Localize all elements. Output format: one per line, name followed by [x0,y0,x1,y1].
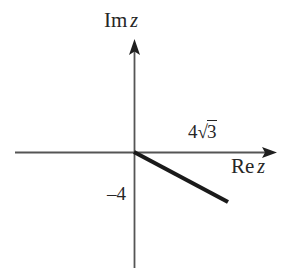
real-axis-label-variable: z [254,155,265,177]
ray-segment [134,152,228,202]
tick-coefficient: 4 [188,121,198,142]
tick-radicand: 3 [207,120,218,142]
complex-plane-figure: Imz Rez 4√3 –4 [0,0,305,273]
imaginary-axis-label-variable: z [127,9,138,31]
real-axis-tick-label: 4√3 [188,122,217,141]
complex-plane-svg [0,0,305,273]
imaginary-axis-tick-label: –4 [107,184,126,203]
real-axis-label: Rez [231,156,265,177]
real-axis-label-prefix: Re [231,154,254,178]
imaginary-axis-label-prefix: Im [104,8,127,32]
imaginary-axis-label: Imz [104,10,138,31]
